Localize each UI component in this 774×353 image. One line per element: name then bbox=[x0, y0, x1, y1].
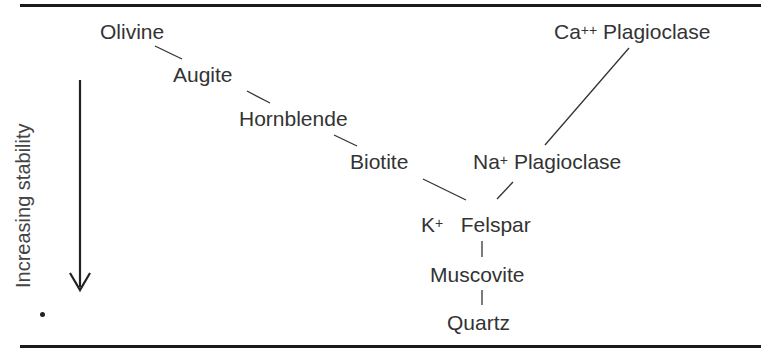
label-quartz: Quartz bbox=[447, 311, 510, 335]
hornblende-biotite-connector bbox=[334, 135, 357, 146]
stability-arrow bbox=[70, 80, 90, 290]
mineral-felspar: Felspar bbox=[461, 213, 531, 236]
ca-na-plagioclase-connector bbox=[545, 48, 629, 145]
label-muscovite: Muscovite bbox=[430, 263, 525, 287]
ion-na: Na bbox=[473, 150, 500, 173]
ion-k: K bbox=[421, 213, 435, 236]
augite-hornblende-connector bbox=[247, 91, 270, 103]
olivine-augite-connector bbox=[155, 46, 182, 59]
na-plagioclase-felspar-connector bbox=[497, 182, 513, 199]
label-ca-plagioclase: Ca++ Plagioclase bbox=[554, 20, 710, 44]
label-olivine: Olivine bbox=[100, 20, 164, 44]
charge-ca: ++ bbox=[581, 22, 597, 38]
mineral-ca-plagioclase: Plagioclase bbox=[603, 20, 710, 43]
connector-lines bbox=[0, 0, 774, 353]
charge-k: + bbox=[435, 215, 443, 231]
biotite-felspar-connector bbox=[423, 179, 466, 200]
label-k-felspar: K+ Felspar bbox=[421, 213, 531, 237]
ion-ca: Ca bbox=[554, 20, 581, 43]
label-biotite: Biotite bbox=[350, 150, 408, 174]
print-speck bbox=[40, 312, 45, 317]
charge-na: + bbox=[500, 152, 508, 168]
axis-label: Increasing stability bbox=[12, 88, 36, 288]
label-na-plagioclase: Na+ Plagioclase bbox=[473, 150, 621, 174]
label-hornblende: Hornblende bbox=[239, 107, 348, 131]
label-augite: Augite bbox=[173, 63, 233, 87]
mineral-na-plagioclase: Plagioclase bbox=[514, 150, 621, 173]
